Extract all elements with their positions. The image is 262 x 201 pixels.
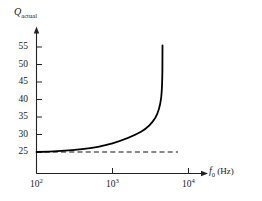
x-axis-title: f0 (Hz): [209, 166, 234, 179]
x-tick-label-1e3: 103: [96, 178, 130, 190]
x-axis-arrow-icon: [201, 171, 208, 176]
x-axis-unit-text: (Hz): [217, 166, 234, 176]
y-axis-title: Qactual: [14, 7, 37, 20]
x-tick-label-1e4: 104: [172, 178, 206, 190]
y-axis-arrow-icon: [34, 27, 39, 34]
y-tick-label-45: 45: [8, 77, 28, 87]
y-tick-label-30: 30: [8, 130, 28, 140]
y-axis-title-subscript: actual: [21, 12, 37, 19]
y-tick-label-50: 50: [8, 60, 28, 70]
x-tick-label-1e2: 102: [20, 178, 54, 190]
y-tick-label-40: 40: [8, 95, 28, 105]
y-tick-label-35: 35: [8, 112, 28, 122]
chart-figure: 55 50 45 40 35 30 25 102 103 104 Qactual…: [0, 0, 262, 201]
y-tick-label-25: 25: [8, 147, 28, 157]
y-tick-label-55: 55: [8, 42, 28, 52]
q-actual-curve: [37, 46, 163, 153]
